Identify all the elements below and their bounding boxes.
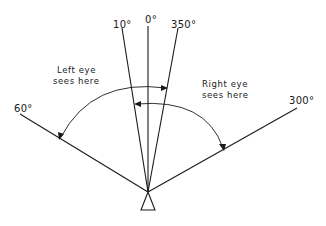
ray-60-degrees: [20, 114, 148, 192]
ray-350-degrees: [148, 28, 178, 192]
ray-300-degrees: [148, 108, 297, 192]
right-eye-field-arc: [136, 103, 223, 148]
left-eye-note-line2: sees here: [53, 76, 100, 86]
right-eye-note-line1: Right eye: [202, 79, 248, 89]
viewer-triangle-icon: [141, 192, 155, 210]
label-350-degrees: 350°: [171, 19, 196, 30]
label-60-degrees: 60°: [14, 103, 33, 114]
ray-10-degrees: [122, 28, 148, 192]
right-eye-arrowtail-icon: [134, 101, 141, 107]
left-eye-note-line1: Left eye: [57, 65, 96, 75]
label-0-degrees: 0°: [145, 14, 157, 25]
right-eye-note-line2: sees here: [202, 90, 249, 100]
visual-field-diagram: 10° 0° 350° 60° 300° Left eye sees here …: [0, 0, 326, 226]
left-eye-field-arc: [61, 87, 166, 137]
label-300-degrees: 300°: [289, 95, 314, 106]
label-10-degrees: 10°: [113, 19, 132, 30]
